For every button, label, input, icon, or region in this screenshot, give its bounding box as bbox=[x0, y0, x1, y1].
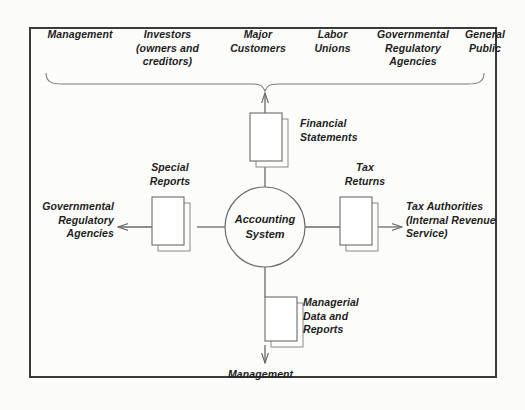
accounting-system-label: Accounting System bbox=[225, 212, 305, 242]
external-user-governmental-regulatory-agencies: Governmental Regulatory Agencies bbox=[366, 28, 460, 69]
label-tax-returns: Tax Returns bbox=[338, 161, 392, 188]
destination-tax-authorities: Tax Authorities (Internal Revenue Servic… bbox=[406, 200, 516, 241]
diagram-page: Management Investors (owners and credito… bbox=[0, 0, 525, 410]
external-user-investors: Investors (owners and creditors) bbox=[125, 28, 210, 69]
destination-management: Management bbox=[228, 368, 318, 382]
label-managerial-data-reports: Managerial Data and Reports bbox=[303, 296, 387, 337]
label-special-reports: Special Reports bbox=[134, 161, 206, 188]
external-user-labor-unions: Labor Unions bbox=[300, 28, 365, 55]
external-user-general-public: General Public bbox=[457, 28, 513, 55]
label-financial-statements: Financial Statements bbox=[300, 117, 386, 144]
external-user-management: Management bbox=[35, 28, 125, 42]
external-user-major-customers: Major Customers bbox=[218, 28, 298, 55]
destination-governmental-regulatory-agencies: Governmental Regulatory Agencies bbox=[36, 200, 114, 241]
